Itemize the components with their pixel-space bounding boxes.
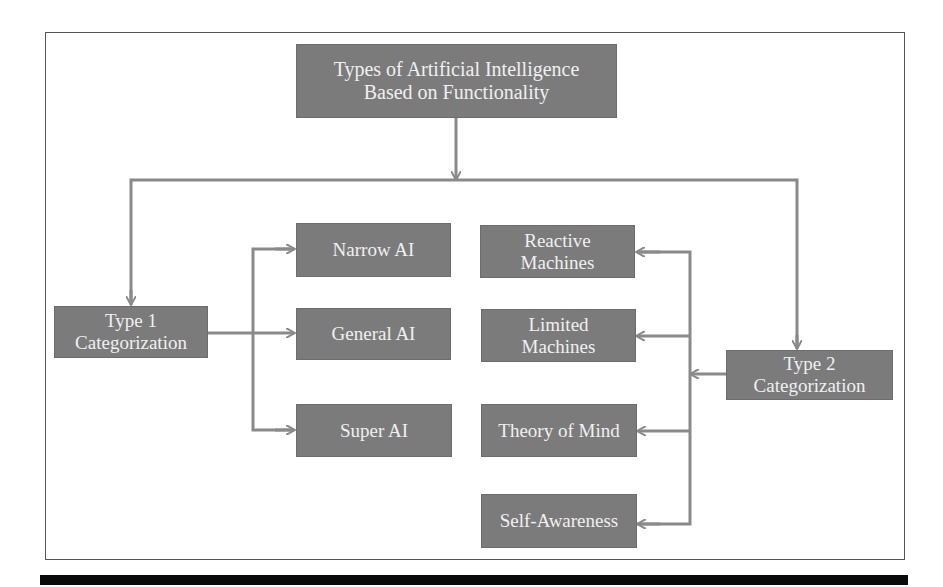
- super-ai-node: Super AI: [296, 404, 452, 457]
- narrow-ai-node: Narrow AI: [296, 223, 451, 277]
- limited-machines-node: Limited Machines: [481, 309, 636, 362]
- type2-label: Type 2 Categorization: [754, 353, 866, 397]
- type1-node: Type 1 Categorization: [54, 306, 208, 358]
- narrow-ai-label: Narrow AI: [333, 239, 415, 261]
- reactive-machines-node: Reactive Machines: [480, 225, 635, 278]
- type2-node: Type 2 Categorization: [726, 350, 893, 400]
- title-label: Types of Artificial Intelligence Based o…: [334, 58, 580, 104]
- reactive-machines-label: Reactive Machines: [521, 230, 595, 274]
- self-awareness-node: Self-Awareness: [481, 494, 637, 548]
- title-node: Types of Artificial Intelligence Based o…: [296, 44, 617, 118]
- theory-of-mind-label: Theory of Mind: [498, 420, 619, 442]
- theory-of-mind-node: Theory of Mind: [481, 404, 637, 457]
- bottom-rule: [40, 575, 908, 585]
- self-awareness-label: Self-Awareness: [500, 510, 619, 532]
- super-ai-label: Super AI: [340, 420, 408, 442]
- type1-label: Type 1 Categorization: [75, 310, 187, 354]
- general-ai-label: General AI: [332, 323, 416, 345]
- limited-machines-label: Limited Machines: [522, 314, 596, 358]
- general-ai-node: General AI: [296, 308, 451, 360]
- main-bus: [131, 180, 797, 349]
